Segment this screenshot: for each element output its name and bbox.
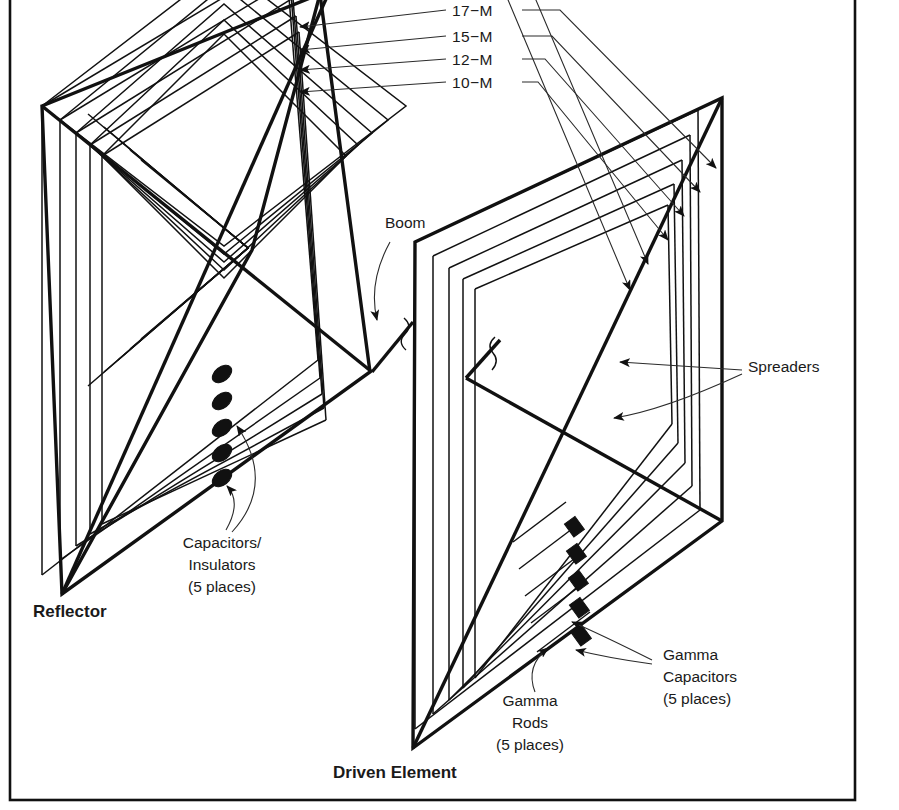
boom [372, 318, 500, 378]
gamma-rods-line3: (5 places) [496, 736, 564, 753]
spreader-arm [466, 378, 722, 521]
driven-back-loops [415, 110, 698, 289]
reflector-wire-loops [42, 0, 326, 575]
boom-leader [374, 242, 390, 320]
reflector-capacitors [209, 362, 235, 491]
gamma-capacitors-line2: Capacitors [663, 668, 737, 685]
capacitor-insulator [209, 362, 235, 387]
capacitors-insulators-label: Capacitors/ Insulators (5 places) [183, 534, 262, 595]
capacitors-insulators-line1: Capacitors/ [183, 534, 262, 551]
driven-bottom-runs [415, 424, 700, 729]
capacitors-insulators-line3: (5 places) [188, 578, 256, 595]
gamma-capacitors-line1: Gamma [663, 646, 719, 663]
gamma-capacitors-label: Gamma Capacitors (5 places) [663, 646, 737, 707]
diagram-canvas: 20−M 17−M 15−M 12−M 10−M Boom Spreaders … [0, 0, 899, 810]
reflector-label: Reflector [33, 602, 107, 621]
spreaders-label: Spreaders [748, 358, 820, 375]
reflector-element [42, 0, 406, 594]
gamma-capacitor [564, 516, 584, 537]
band-leaders-to-driven [470, 0, 716, 290]
band-label-group: 20−M 17−M 15−M 12−M 10−M [452, 0, 493, 91]
capacitor-insulator [209, 389, 235, 414]
capacitors-insulators-line2: Insulators [188, 556, 255, 573]
gamma-rods-line2: Rods [512, 714, 548, 731]
gamma-rods-line1: Gamma [502, 692, 558, 709]
gamma-rod [525, 556, 578, 596]
boom-label: Boom [385, 214, 426, 231]
band-label-12m: 12−M [452, 51, 493, 68]
driven-left-edges [415, 242, 475, 729]
quad-antenna-drawing: 20−M 17−M 15−M 12−M 10−M Boom Spreaders … [0, 0, 899, 810]
band-label-15m: 15−M [452, 28, 493, 45]
capacitor-insulator [209, 416, 235, 441]
gamma-capacitor [568, 570, 588, 591]
gamma-capacitors-line3: (5 places) [663, 690, 731, 707]
band-label-17m: 17−M [452, 2, 493, 19]
gamma-capacitor [566, 543, 586, 564]
driven-element-label: Driven Element [333, 763, 457, 782]
gamma-rods-label: Gamma Rods (5 places) [496, 692, 564, 753]
band-label-10m: 10−M [452, 74, 493, 91]
